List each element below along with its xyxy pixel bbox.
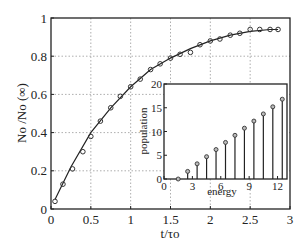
x-tick-label: 3 — [287, 212, 294, 227]
y-tick-label: 0.6 — [31, 87, 48, 102]
stem-marker — [280, 97, 284, 101]
y-axis-label: No /No (∞) — [14, 83, 29, 143]
x-tick-label: 2 — [207, 212, 214, 227]
x-tick-label: 0 — [48, 212, 55, 227]
chart-svg: 00.511.522.5300.20.40.60.81 t/τo No /No … — [0, 0, 304, 244]
x-tick-label: 1 — [127, 212, 134, 227]
inset-chart: 03691205101520 energy population — [137, 78, 287, 197]
y-tick-label: 1 — [41, 11, 48, 26]
y-tick-label: 0.4 — [31, 125, 48, 140]
inset-y-tick-label: 5 — [157, 149, 163, 161]
stem-marker — [224, 140, 228, 144]
inset-x-tick-label: 12 — [272, 180, 283, 192]
inset-x-tick-label: 0 — [161, 180, 167, 192]
stem-marker — [271, 105, 275, 109]
stem-marker — [176, 177, 180, 181]
stem-marker — [233, 133, 237, 137]
stem-marker — [214, 148, 218, 152]
inset-x-tick-label: 9 — [246, 180, 252, 192]
x-tick-label: 0.5 — [83, 212, 99, 227]
data-point — [81, 149, 86, 154]
inset-y-tick-label: 20 — [151, 78, 163, 90]
stem-marker — [261, 112, 265, 116]
y-tick-label: 0.2 — [31, 163, 47, 178]
inset-y-tick-label: 0 — [157, 173, 163, 185]
inset-x-axis-label: energy — [207, 185, 237, 197]
stem-marker — [195, 162, 199, 166]
x-axis-label: t/τo — [161, 226, 180, 241]
stem-marker — [205, 155, 209, 159]
x-tick-label: 1.5 — [162, 212, 178, 227]
stem-marker — [242, 126, 246, 130]
inset-y-tick-label: 15 — [151, 102, 163, 114]
inset-y-axis-label: population — [137, 107, 149, 155]
inset-y-tick-label: 10 — [151, 126, 163, 138]
stem-marker — [186, 169, 190, 173]
data-point — [188, 50, 193, 55]
stem-marker — [252, 119, 256, 123]
data-point — [53, 199, 58, 204]
inset-x-tick-label: 3 — [190, 180, 196, 192]
y-tick-label: 0 — [41, 202, 48, 217]
x-tick-label: 2.5 — [242, 212, 258, 227]
y-tick-label: 0.8 — [31, 49, 47, 64]
